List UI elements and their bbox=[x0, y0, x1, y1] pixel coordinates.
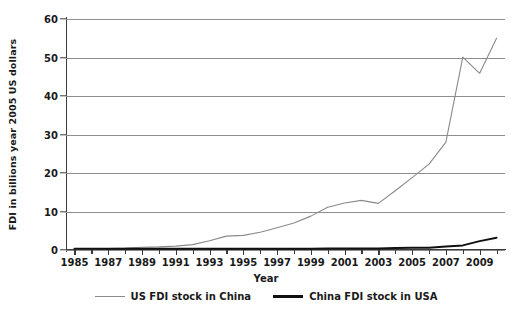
legend-item: US FDI stock in China bbox=[95, 291, 252, 302]
legend-line-swatch bbox=[95, 296, 125, 297]
chart-legend: US FDI stock in ChinaChina FDI stock in … bbox=[0, 291, 532, 302]
x-axis-title: Year bbox=[0, 273, 532, 284]
chart-container: FDI in billions year 2005 US dollars 010… bbox=[0, 0, 532, 311]
data-series-layer bbox=[0, 0, 532, 311]
legend-label: US FDI stock in China bbox=[131, 291, 252, 302]
legend-line-swatch bbox=[273, 295, 303, 297]
series-line-0 bbox=[74, 38, 496, 249]
legend-label: China FDI stock in USA bbox=[309, 291, 437, 302]
legend-item: China FDI stock in USA bbox=[273, 291, 437, 302]
